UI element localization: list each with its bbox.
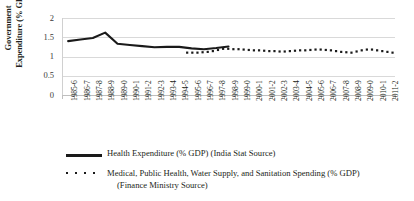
legend-label-line2: (Finance Ministry Source) (107, 180, 407, 192)
chart-legend: Health Expenditure (% GDP) (India Stat S… (0, 148, 414, 201)
data-point-marker (217, 49, 219, 51)
data-point-marker (320, 48, 322, 50)
data-point-marker (325, 49, 327, 51)
data-point-marker (371, 48, 373, 50)
data-point-marker (366, 48, 368, 50)
x-axis-tick-label: 1987-8 (96, 80, 104, 101)
x-axis-tick-label: 1992-3 (158, 80, 166, 101)
x-axis-tick-label: 2004-5 (306, 80, 314, 101)
data-point-marker (207, 51, 209, 53)
series-health-expenditure-line (68, 33, 228, 50)
data-point-marker (278, 50, 280, 52)
x-axis-tick-label: 1997-8 (219, 80, 227, 101)
x-axis-tick-label: 1985-6 (71, 80, 79, 101)
x-axis-tick-label: 2006-7 (330, 80, 338, 101)
data-point-marker (196, 52, 198, 54)
x-axis-tick-label: 2008-9 (355, 80, 363, 101)
data-point-marker (309, 49, 311, 51)
x-axis-tick-label: 2010-1 (380, 80, 388, 101)
data-point-marker (345, 51, 347, 53)
data-point-marker (263, 50, 265, 52)
y-axis-tick-label: 0.5 (22, 71, 54, 80)
data-point-marker (212, 50, 214, 52)
data-point-marker (186, 52, 188, 54)
x-axis-tick-label: 2007-8 (343, 80, 351, 101)
legend-line-swatch-icon (66, 154, 102, 157)
y-axis-tick-label: 1.5 (22, 33, 54, 42)
data-point-marker (299, 49, 301, 51)
legend-label-line1: Medical, Public Health, Water Supply, an… (107, 168, 360, 178)
data-point-marker (386, 51, 388, 53)
x-axis-tick-label: 1995-6 (195, 80, 203, 101)
data-point-marker (232, 48, 234, 50)
x-axis-tick-label: 2002-3 (281, 80, 289, 101)
x-axis-tick-label: 1986-7 (84, 80, 92, 101)
data-point-marker (335, 50, 337, 52)
data-point-marker (248, 49, 250, 51)
x-axis-tick-label: 1988-9 (108, 80, 116, 101)
data-point-marker (376, 49, 378, 51)
data-point-marker (258, 49, 260, 51)
data-point-marker (253, 49, 255, 51)
data-point-marker (237, 48, 239, 50)
x-axis-tick-label: 2009-0 (367, 80, 375, 101)
x-axis-tick-label: 1989-0 (121, 80, 129, 101)
data-point-marker (391, 52, 393, 54)
x-axis-tick-label: 2003-4 (293, 80, 301, 101)
x-axis-tick-label: 1996-7 (207, 80, 215, 101)
x-axis-tick-label: 1990-1 (133, 80, 141, 101)
x-axis-tick-label: 1994-5 (182, 80, 190, 101)
legend-label-medical-public-health: Medical, Public Health, Water Supply, an… (107, 168, 407, 191)
legend-item-health-expenditure: Health Expenditure (% GDP) (India Stat S… (0, 148, 414, 162)
data-point-marker (350, 52, 352, 54)
legend-dots-swatch-icon (66, 172, 102, 176)
data-point-marker (381, 50, 383, 52)
legend-label-health-expenditure: Health Expenditure (% GDP) (India Stat S… (107, 148, 276, 160)
y-axis-tick-label: 0 (22, 91, 54, 100)
x-axis-tick-label: 2001-2 (269, 80, 277, 101)
data-point-marker (273, 50, 275, 52)
x-axis-tick-label: 1993-4 (170, 80, 178, 101)
x-axis-tick-label: 1991-2 (145, 80, 153, 101)
data-point-marker (289, 50, 291, 52)
data-point-marker (330, 49, 332, 51)
data-point-marker (294, 50, 296, 52)
y-axis-tick-label: 2 (22, 14, 54, 23)
data-point-marker (304, 49, 306, 51)
data-point-marker (361, 49, 363, 51)
data-point-marker (268, 50, 270, 52)
x-axis-tick-label: 2005-6 (318, 80, 326, 101)
data-point-marker (314, 48, 316, 50)
data-point-marker (227, 48, 229, 50)
data-point-marker (201, 51, 203, 53)
x-axis-tick-labels: 1985-61986-71987-81988-91989-01990-11991… (0, 99, 414, 143)
x-axis-tick-label: 1999-0 (244, 80, 252, 101)
data-point-marker (340, 51, 342, 53)
x-axis-tick-label: 2000-1 (256, 80, 264, 101)
data-point-marker (191, 52, 193, 54)
x-axis-tick-label: 2011-2 (392, 81, 400, 101)
x-axis-tick-label: 1998-9 (232, 80, 240, 101)
legend-item-medical-public-health: Medical, Public Health, Water Supply, an… (0, 168, 414, 198)
y-axis-tick-label: 1 (22, 52, 54, 61)
chart-container: Government Expenditure (% GDP) 00.511.52… (0, 0, 414, 201)
data-point-marker (284, 50, 286, 52)
data-point-marker (356, 50, 358, 52)
data-point-marker (222, 48, 224, 50)
data-point-marker (243, 48, 245, 50)
